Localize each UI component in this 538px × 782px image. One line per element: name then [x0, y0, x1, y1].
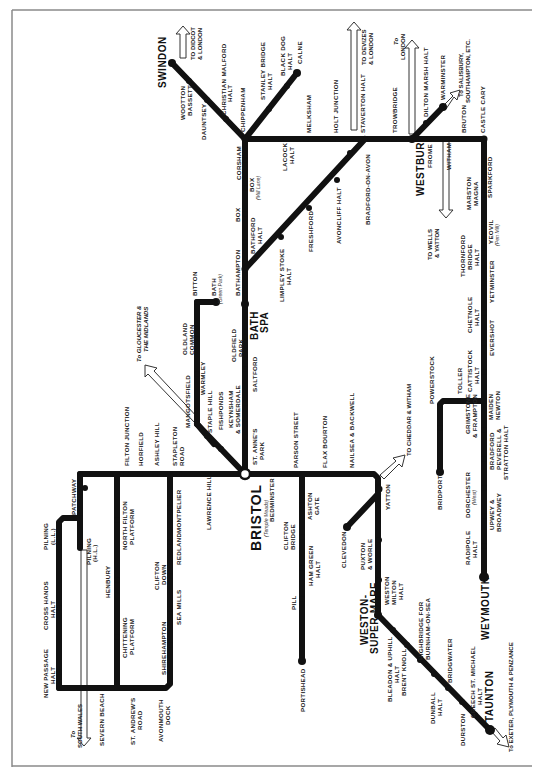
- station-label-line: (H.L.): [91, 544, 98, 562]
- station-dot-icon: [343, 523, 351, 531]
- station-label-line: (Mill Lane): [255, 176, 261, 200]
- station-label-line: BRIDGE: [289, 524, 296, 550]
- station-frome: FROME: [426, 144, 433, 168]
- line-clevedon-branch: [347, 494, 378, 527]
- station-radipole: RADIPOLE: [464, 531, 471, 565]
- station-dot-icon: [242, 239, 248, 245]
- label-weston-2: SUPER-MARE: [369, 582, 380, 654]
- station-new-passage: NEW PASSAGE: [42, 649, 49, 698]
- line-bathampton-trowbridge: [245, 139, 365, 269]
- station-avonmouth: AVONMOUTH: [157, 699, 164, 742]
- station-label-line: PLATFORM: [128, 509, 135, 545]
- station-label-line: BASSETT: [186, 85, 193, 116]
- station-trowbridge: TROWBRIDGE: [391, 87, 398, 133]
- station-label-line: DOCK: [164, 705, 171, 725]
- station-dot-icon: [218, 446, 224, 452]
- station-dot-icon: [485, 725, 495, 735]
- station-saltford: SALTFORD: [251, 356, 258, 392]
- station-dot-icon: [241, 300, 249, 308]
- station-dot-icon: [114, 577, 120, 583]
- station-label-line: PEVERELL &: [495, 428, 502, 470]
- station-redland: REDLAND: [175, 532, 182, 565]
- station-yetminster: YETMINSTER: [488, 260, 495, 303]
- station-dot-icon: [223, 116, 229, 122]
- station-dot-icon: [436, 468, 444, 476]
- station-creech: CREECH ST. MICHAEL: [469, 646, 476, 718]
- direction-salisbury: To SALISBURY,: [458, 53, 464, 97]
- station-dot-icon: [167, 573, 173, 579]
- station-dot-icon: [334, 177, 340, 183]
- station-clevedon: CLEVEDON: [340, 531, 347, 568]
- station-dot-icon: [376, 486, 383, 493]
- station-sea-mills: SEA MILLS: [175, 590, 182, 625]
- station-dot-icon: [56, 544, 62, 550]
- station-bathampton: BATHAMPTON: [234, 249, 241, 296]
- station-dot-icon: [481, 369, 487, 375]
- direction-didcot-2: & LONDON: [197, 28, 203, 60]
- station-label-line: BURNHAM-ON-SEA: [424, 597, 431, 660]
- station-dot-icon: [137, 471, 143, 477]
- station-clifton-bridge: CLIFTON: [282, 521, 289, 550]
- station-henbury: HENBURY: [104, 565, 111, 598]
- station-stanley-bridge: STANLEY BRIDGE: [259, 42, 266, 100]
- station-dot-icon: [292, 471, 298, 477]
- station-stapleton-road: STAPLETON: [171, 426, 178, 466]
- arrow-diagonal-icon: [145, 365, 200, 424]
- direction-london: To: [393, 38, 399, 45]
- station-dot-icon: [481, 485, 487, 491]
- station-label-line: PARK: [237, 338, 244, 357]
- station-ashley-hill: ASHLEY HILL: [153, 422, 160, 466]
- station-dot-icon: [391, 136, 397, 142]
- station-staverton: STAVERTON HALT: [359, 74, 366, 133]
- station-dot-icon: [278, 136, 284, 142]
- station-cross-hands: CROSS HANDS: [42, 581, 49, 630]
- line-bristol-west: [80, 474, 245, 520]
- station-dot-icon: [437, 425, 443, 431]
- station-dot-icon: [56, 669, 62, 675]
- station-label-line: HALT: [436, 699, 443, 716]
- station-dot-icon: [303, 136, 309, 142]
- station-label-line: ROAD: [178, 446, 185, 466]
- station-dot-icon: [242, 400, 248, 406]
- station-black-dog: BLACK DOG: [279, 36, 286, 76]
- station-dot-icon: [481, 340, 487, 346]
- station-bruton: BRUTON: [460, 105, 467, 133]
- station-dot-icon: [186, 78, 192, 84]
- station-label-line: (Pen Mill): [494, 224, 500, 246]
- station-avoncliff: AVONCLIFF HALT: [335, 187, 342, 244]
- station-dot-icon: [242, 434, 248, 440]
- station-dot-icon: [431, 671, 437, 677]
- label-bath-spa: SPA: [259, 312, 270, 333]
- station-toller: TOLLER: [456, 367, 463, 394]
- station-pill: PILL: [290, 595, 297, 610]
- station-bradford-peverell: BRADFORD: [488, 432, 495, 470]
- station-corsham: CORSHAM: [235, 146, 242, 180]
- station-label-line: & FRAMPTON: [471, 394, 478, 438]
- station-dot-icon: [481, 513, 487, 519]
- direction-didcot: TO DIDCOT: [190, 27, 196, 60]
- station-dot-icon: [167, 539, 173, 545]
- station-dot-icon: [114, 517, 120, 523]
- bristol-hub-icon: [240, 469, 250, 479]
- station-dilton-marsh: DILTON MARSH HALT: [422, 47, 429, 117]
- station-dot-icon: [348, 471, 354, 477]
- station-dot-icon: [444, 136, 450, 142]
- station-witham: WITHAM: [445, 143, 452, 170]
- station-sparkford: SPARKFORD: [486, 156, 493, 198]
- station-dot-icon: [278, 234, 284, 240]
- station-label-line: HALT: [473, 309, 480, 326]
- arrow-up-icon: [405, 40, 419, 134]
- station-limpley-stoke: LIMPLEY STOKE: [278, 248, 285, 302]
- direction-south-wales-2: SOUTH WALES: [77, 704, 83, 748]
- station-dot-icon: [376, 537, 382, 543]
- station-bridport: BRIDPORT: [436, 475, 443, 510]
- station-yeovil: YEOVIL: [487, 220, 494, 245]
- station-dot-icon: [97, 685, 103, 691]
- station-label-line: DOWN: [160, 564, 167, 585]
- station-label-line: HALT: [285, 268, 292, 285]
- station-dot-icon: [299, 565, 305, 571]
- station-bradford-on-avon: BRADFORD-ON-AVON: [364, 154, 371, 225]
- station-bleadon: BLEADON & UPHILL: [386, 636, 393, 702]
- station-fishponds: FISHPONDS: [217, 391, 224, 430]
- station-dot-icon: [167, 642, 173, 648]
